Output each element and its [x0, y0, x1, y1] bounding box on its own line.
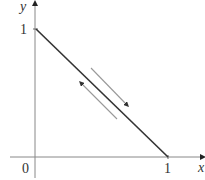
y-axis-label: y — [18, 0, 27, 14]
x-tick-label: 1 — [164, 161, 171, 176]
line-segment — [36, 29, 168, 157]
origin-label: 0 — [22, 161, 29, 176]
y-tick-label: 1 — [20, 22, 27, 37]
x-axis-label: x — [197, 160, 205, 175]
diagram-canvas: y 1 0 1 x — [0, 0, 205, 180]
